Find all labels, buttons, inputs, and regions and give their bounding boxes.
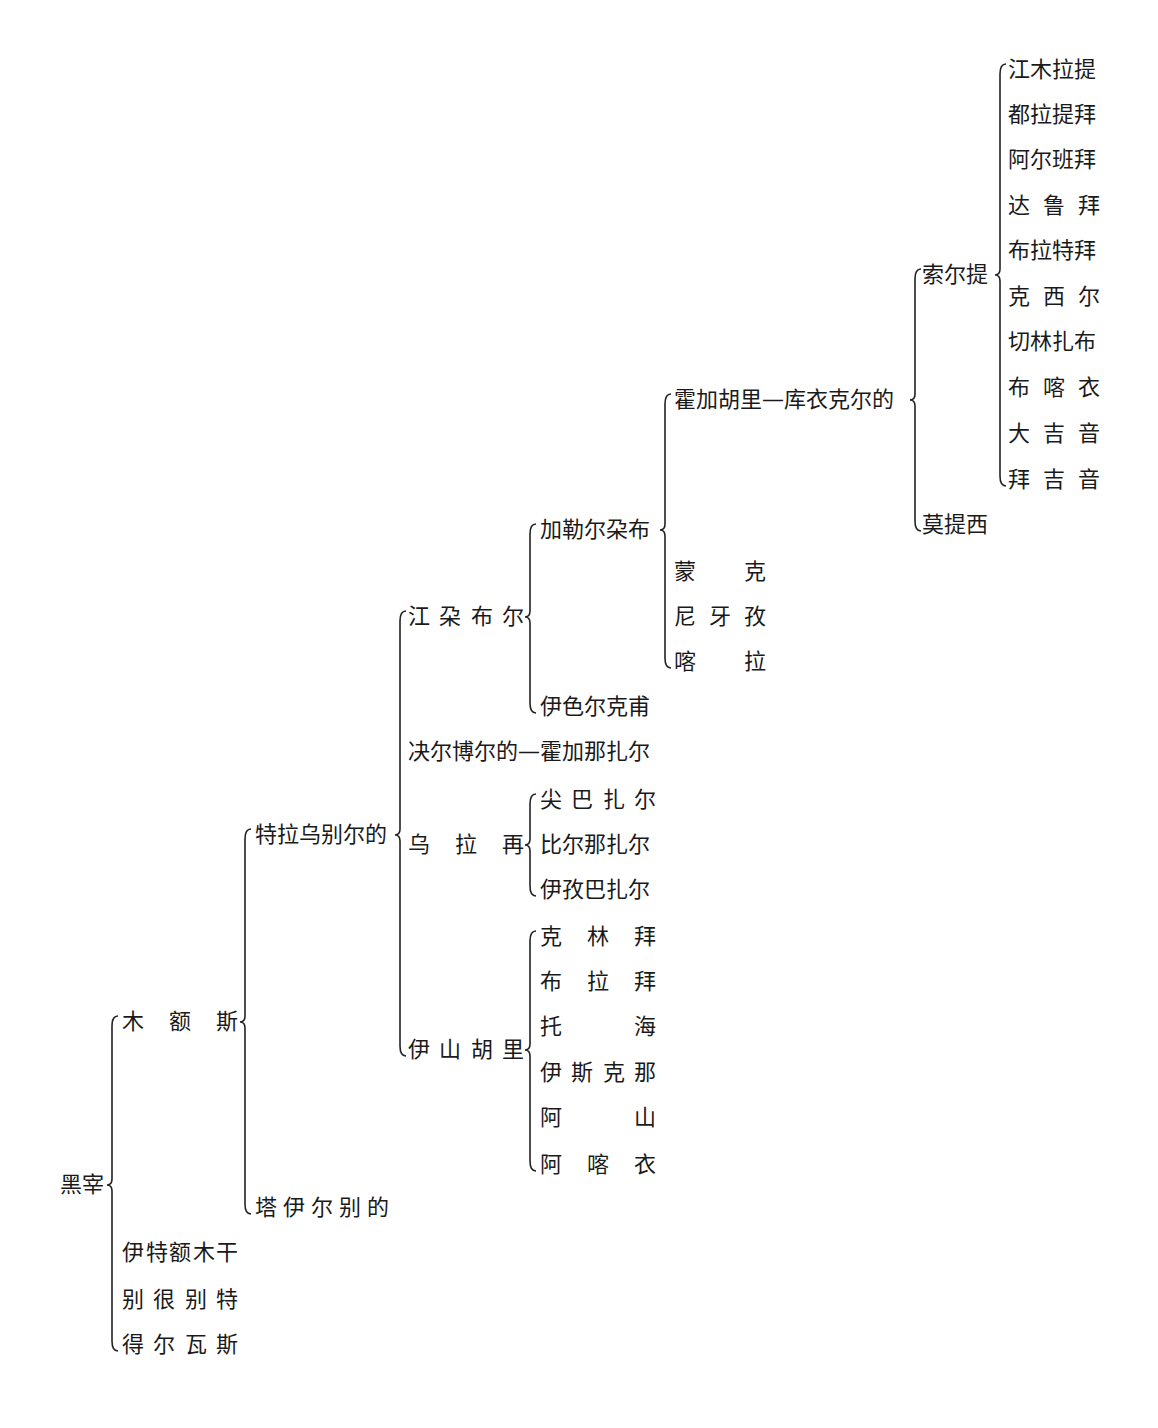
name-char: 林 bbox=[587, 924, 609, 950]
person-yizi-bazhaer: 伊孜巴扎尔 bbox=[540, 877, 650, 903]
name-char: 干 bbox=[216, 1240, 238, 1266]
name-char: 孜 bbox=[744, 604, 766, 630]
name-char: 别 bbox=[339, 1195, 361, 1221]
name-char: 牙 bbox=[709, 604, 731, 630]
name-char: 木 bbox=[122, 1009, 144, 1035]
person-tuo-hai: 托海 bbox=[540, 1014, 656, 1040]
name-char: 喀 bbox=[1043, 375, 1065, 401]
name-char: 的 bbox=[367, 1195, 389, 1221]
name-char: 拜 bbox=[1078, 193, 1100, 219]
name-char: 达 bbox=[1008, 193, 1030, 219]
name-char: 吉 bbox=[1043, 467, 1065, 493]
person-aer-banbai: 阿尔班拜 bbox=[1008, 147, 1096, 173]
brace-line bbox=[107, 1016, 118, 1351]
person-meng-ke: 蒙克 bbox=[674, 559, 766, 585]
person-ke-lin-bai: 克林拜 bbox=[540, 924, 656, 950]
person-motixi: 莫提西 bbox=[922, 512, 988, 538]
brace-line bbox=[525, 524, 536, 713]
person-bie-hen-bie-te: 别很别特 bbox=[122, 1287, 238, 1313]
name-char: 克 bbox=[744, 559, 766, 585]
person-bier-nazhaer: 比尔那扎尔 bbox=[540, 832, 650, 858]
name-char: 巴 bbox=[571, 787, 593, 813]
person-tela-wubie-erde: 特拉乌别尔的 bbox=[255, 822, 387, 848]
person-yite-emugan: 伊特额木干 bbox=[122, 1240, 238, 1266]
brace-line bbox=[660, 394, 671, 668]
name-char: 拜 bbox=[1008, 467, 1030, 493]
name-char: 拉 bbox=[587, 969, 609, 995]
person-bu-ka-yi: 布喀衣 bbox=[1008, 375, 1100, 401]
name-char: 尖 bbox=[540, 787, 562, 813]
name-char: 音 bbox=[1078, 467, 1100, 493]
person-qielin-zhabu: 切林扎布 bbox=[1008, 329, 1096, 355]
person-yiseer-kefu: 伊色尔克甫 bbox=[540, 694, 650, 720]
name-char: 额 bbox=[169, 1240, 191, 1266]
name-char: 拜 bbox=[634, 924, 656, 950]
person-da-lu-bai: 达鲁拜 bbox=[1008, 193, 1100, 219]
brace-line bbox=[395, 611, 406, 1056]
name-char: 大 bbox=[1008, 421, 1030, 447]
name-char: 布 bbox=[1008, 375, 1030, 401]
name-char: 尔 bbox=[153, 1332, 175, 1358]
person-ka-la: 喀拉 bbox=[674, 649, 766, 675]
person-ke-xi-er: 克西尔 bbox=[1008, 284, 1100, 310]
brace-line bbox=[240, 829, 251, 1214]
name-char: 伊 bbox=[408, 1037, 430, 1063]
person-ni-ya-zi: 尼牙孜 bbox=[674, 604, 766, 630]
name-char: 布 bbox=[540, 969, 562, 995]
name-char: 伊 bbox=[540, 1060, 562, 1086]
name-char: 朶 bbox=[439, 604, 461, 630]
name-char: 衣 bbox=[1078, 375, 1100, 401]
person-wu-la-zai: 乌拉再 bbox=[408, 832, 524, 858]
person-suoerti: 索尔提 bbox=[922, 262, 988, 288]
name-char bbox=[709, 649, 731, 675]
name-char: 拉 bbox=[455, 832, 477, 858]
name-char: 胡 bbox=[471, 1037, 493, 1063]
name-char: 尔 bbox=[502, 604, 524, 630]
name-char: 尔 bbox=[634, 787, 656, 813]
person-jialeer-duobu: 加勒尔朶布 bbox=[540, 517, 650, 543]
brace-line bbox=[995, 64, 1006, 486]
name-char: 克 bbox=[1008, 284, 1030, 310]
person-huojia-huli-kuyi-keerde: 霍加胡里—库衣克尔的 bbox=[674, 387, 894, 413]
name-char: 海 bbox=[634, 1014, 656, 1040]
name-char: 衣 bbox=[634, 1152, 656, 1178]
name-char: 斯 bbox=[571, 1060, 593, 1086]
name-char: 很 bbox=[153, 1287, 175, 1313]
name-char: 伊 bbox=[283, 1195, 305, 1221]
name-char: 江 bbox=[408, 604, 430, 630]
person-bula-tebai: 布拉特拜 bbox=[1008, 238, 1096, 264]
name-char: 瓦 bbox=[185, 1332, 207, 1358]
name-char: 山 bbox=[439, 1037, 461, 1063]
name-char: 得 bbox=[122, 1332, 144, 1358]
name-char bbox=[709, 559, 731, 585]
name-char: 塔 bbox=[255, 1195, 277, 1221]
name-char: 西 bbox=[1043, 284, 1065, 310]
person-dula-tibai: 都拉提拜 bbox=[1008, 102, 1096, 128]
person-yi-si-ke-na: 伊斯克那 bbox=[540, 1060, 656, 1086]
person-ta-yi-er-bie-de: 塔伊尔别的 bbox=[255, 1195, 389, 1221]
person-bu-la-bai: 布拉拜 bbox=[540, 969, 656, 995]
name-char: 托 bbox=[540, 1014, 562, 1040]
person-de-er-wa-si: 得尔瓦斯 bbox=[122, 1332, 238, 1358]
name-char: 布 bbox=[471, 604, 493, 630]
name-char: 扎 bbox=[603, 787, 625, 813]
person-da-ji-yin: 大吉音 bbox=[1008, 421, 1100, 447]
name-char: 尔 bbox=[311, 1195, 333, 1221]
name-char: 别 bbox=[122, 1287, 144, 1313]
brace-line bbox=[525, 794, 536, 896]
name-char: 木 bbox=[193, 1240, 215, 1266]
name-char: 克 bbox=[603, 1060, 625, 1086]
name-char: 再 bbox=[502, 832, 524, 858]
name-char: 喀 bbox=[587, 1152, 609, 1178]
name-char: 阿 bbox=[540, 1105, 562, 1131]
person-jiangmu-lati: 江木拉提 bbox=[1008, 57, 1096, 83]
person-jian-ba-zha-er: 尖巴扎尔 bbox=[540, 787, 656, 813]
name-char: 特 bbox=[216, 1287, 238, 1313]
name-char: 别 bbox=[185, 1287, 207, 1313]
name-char: 斯 bbox=[216, 1332, 238, 1358]
person-yi-shan-hu-li: 伊山胡里 bbox=[408, 1037, 524, 1063]
name-char: 吉 bbox=[1043, 421, 1065, 447]
name-char: 蒙 bbox=[674, 559, 696, 585]
person-a-ka-yi: 阿喀衣 bbox=[540, 1152, 656, 1178]
name-char: 拜 bbox=[634, 969, 656, 995]
